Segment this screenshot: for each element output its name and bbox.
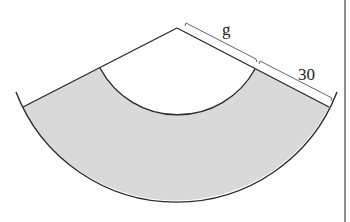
label-30: 30 bbox=[298, 65, 315, 84]
dimension-g bbox=[185, 23, 257, 62]
label-g: g bbox=[222, 20, 231, 39]
shaded-ring bbox=[23, 68, 329, 200]
annular-sector-diagram: g 30 bbox=[0, 0, 350, 222]
